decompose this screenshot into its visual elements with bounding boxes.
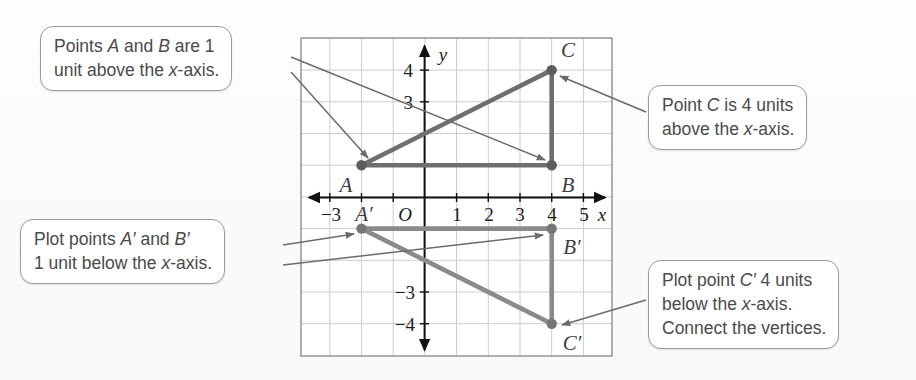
callout-var-c-prime: C′ [740,270,756,290]
x-tick-label-5: 5 [579,204,589,225]
callout-text: unit above the [54,60,169,80]
point-label-c-prime: C′ [563,331,582,355]
callout-text: below the [662,294,742,314]
x-tick-label--3: −3 [321,204,341,225]
callout-var-c: C [707,95,720,115]
callout-plot-c-prime-line2: below the x-axis. [662,292,826,316]
callout-plot-a-b-prime-line1: Plot points A′ and B′ [34,227,212,251]
callout-text: -axis. [752,119,794,139]
callout-points-a-b: Points A and B are 1 unit above the x-ax… [40,26,232,91]
point-label-a: A [338,173,353,197]
point-label-a-prime: A′ [353,202,373,226]
x-tick-label-3: 3 [515,204,525,225]
callout-var-x: x [169,60,178,80]
callout-plot-a-b-prime-line2: 1 unit below the x-axis. [34,251,212,275]
callout-text: -axis. [751,294,793,314]
callout-plot-c-prime-line1: Plot point C′ 4 units [662,268,826,292]
callout-text: 4 units [756,270,812,290]
callout-point-c: Point C is 4 units above the x-axis. [648,85,807,150]
vertex-b-prime [547,223,557,233]
figure-canvas: −3 1 2 3 4 5 4 3 −3 −4 O x y A B C [0,0,916,380]
callout-points-a-b-line1: Points A and B are 1 [54,34,219,58]
callout-var-b: B [158,36,170,56]
callout-var-x: x [742,294,751,314]
y-axis-name: y [437,44,448,65]
vertex-c [547,65,557,75]
point-label-b: B [562,173,575,197]
vertex-c-prime [547,319,557,329]
callout-plot-c-prime-line3: Connect the vertices. [662,316,826,340]
callout-text: -axis. [178,60,220,80]
callout-plot-c-prime: Plot point C′ 4 units below the x-axis. … [648,260,839,349]
callout-var-a: A [108,36,120,56]
x-tick-label-2: 2 [484,204,494,225]
callout-text: and [119,36,158,56]
callout-text: above the [662,119,744,139]
callout-var-a-prime: A′ [121,229,136,249]
callout-text: -axis. [170,253,212,273]
origin-label: O [398,204,412,225]
callout-text: Plot points [34,229,121,249]
callout-text: Plot point [662,270,740,290]
callout-text: Points [54,36,108,56]
callout-var-b-prime: B′ [174,229,189,249]
callout-points-a-b-line2: unit above the x-axis. [54,58,219,82]
callout-text: Point [662,95,707,115]
point-label-c: C [561,38,576,62]
vertex-a [356,160,366,170]
x-tick-label-1: 1 [452,204,462,225]
callout-plot-a-b-prime: Plot points A′ and B′ 1 unit below the x… [20,219,225,284]
y-tick-label--3: −3 [395,282,415,303]
callout-var-x: x [161,253,170,273]
callout-point-c-line2: above the x-axis. [662,117,794,141]
x-tick-label-4: 4 [547,204,557,225]
callout-point-c-line1: Point C is 4 units [662,93,794,117]
vertex-b [547,160,557,170]
y-tick-label--4: −4 [395,314,416,335]
callout-text: are 1 [170,36,215,56]
point-label-b-prime: B′ [563,235,581,259]
callout-text: is 4 units [719,95,793,115]
x-axis-name: x [597,204,607,225]
y-tick-label-4: 4 [404,60,414,81]
callout-text: and [136,229,175,249]
callout-text: 1 unit below the [34,253,161,273]
